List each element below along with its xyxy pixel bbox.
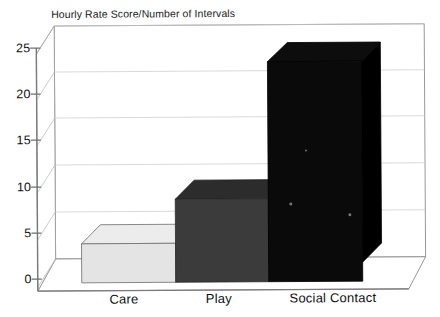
y-tick-label-5: 5 [5, 226, 31, 240]
y-tick-label-25: 25 [4, 41, 30, 55]
y-tick-label-15: 15 [5, 133, 31, 147]
y-tick-label-10: 10 [5, 180, 31, 194]
x-category-label-social-contact: Social Contact [263, 290, 403, 306]
y-tick-label-20: 20 [5, 87, 31, 101]
bar-chart-3d [0, 0, 440, 317]
scan-speckle [305, 149, 307, 151]
x-category-label-care: Care [79, 291, 169, 307]
x-category-label-play: Play [174, 291, 264, 307]
bar-social-contact[interactable] [267, 42, 381, 282]
y-tick-label-0: 0 [6, 272, 32, 286]
chart-scene: Hourly Rate Score/Number of Intervals [0, 0, 440, 317]
scan-speckle [348, 213, 351, 216]
scan-speckle [289, 203, 292, 206]
left-wall [36, 26, 56, 291]
